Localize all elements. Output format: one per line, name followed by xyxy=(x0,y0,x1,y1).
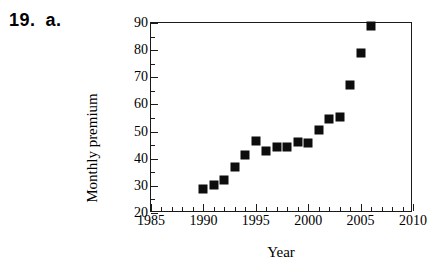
y-tick-major xyxy=(151,159,158,160)
x-tick-label: 1990 xyxy=(180,214,226,228)
data-point xyxy=(230,162,239,171)
data-point xyxy=(367,21,376,30)
x-axis-title: Year xyxy=(150,244,412,261)
data-point xyxy=(199,184,208,193)
data-point xyxy=(283,143,292,152)
data-point xyxy=(356,48,365,57)
y-tick-major xyxy=(151,77,158,78)
x-tick-label: 2005 xyxy=(338,214,384,228)
x-tick-label: 2010 xyxy=(390,214,436,228)
y-axis-title: Monthly premium xyxy=(84,53,101,243)
data-point xyxy=(272,143,281,152)
data-point xyxy=(262,146,271,155)
x-tick-major xyxy=(256,204,257,211)
data-point xyxy=(304,138,313,147)
y-tick-label: 90 xyxy=(120,16,148,30)
x-tick-minor xyxy=(161,207,162,211)
x-tick-major xyxy=(151,204,152,211)
data-point xyxy=(335,113,344,122)
problem-part: a. xyxy=(46,10,62,30)
x-tick-minor xyxy=(235,207,236,211)
figure: 19.a. Monthly premium 2030405060708090 1… xyxy=(0,0,439,278)
x-tick-major xyxy=(203,204,204,211)
x-tick-minor xyxy=(224,207,225,211)
x-tick-minor xyxy=(214,207,215,211)
x-tick-minor xyxy=(329,207,330,211)
y-tick-label: 50 xyxy=(120,125,148,139)
problem-label: 19.a. xyxy=(9,10,62,31)
y-tick-major xyxy=(151,23,158,24)
y-tick-major xyxy=(151,132,158,133)
data-point xyxy=(293,138,302,147)
x-tick-label: 1995 xyxy=(233,214,279,228)
y-tick-label: 70 xyxy=(120,70,148,84)
y-tick-minor xyxy=(151,199,155,200)
x-tick-major xyxy=(308,204,309,211)
y-tick-label: 80 xyxy=(120,43,148,57)
y-tick-major xyxy=(151,186,158,187)
y-tick-label: 60 xyxy=(120,97,148,111)
data-point xyxy=(241,150,250,159)
x-tick-minor xyxy=(403,207,404,211)
x-tick-minor xyxy=(392,207,393,211)
data-point xyxy=(325,115,334,124)
data-point xyxy=(209,181,218,190)
x-tick-label: 1985 xyxy=(128,214,174,228)
y-tick-minor xyxy=(151,172,155,173)
data-point xyxy=(346,81,355,90)
x-tick-label: 2000 xyxy=(285,214,331,228)
y-tick-major xyxy=(151,50,158,51)
y-tick-label: 40 xyxy=(120,152,148,166)
scatter-plot-area: Monthly premium 2030405060708090 1985199… xyxy=(150,22,412,212)
y-tick-label: 30 xyxy=(120,179,148,193)
y-tick-minor xyxy=(151,145,155,146)
x-tick-minor xyxy=(350,207,351,211)
x-tick-major xyxy=(361,204,362,211)
x-tick-minor xyxy=(287,207,288,211)
y-tick-minor xyxy=(151,118,155,119)
y-tick-major xyxy=(151,104,158,105)
x-tick-minor xyxy=(277,207,278,211)
problem-number: 19. xyxy=(9,10,36,30)
x-tick-minor xyxy=(371,207,372,211)
data-point xyxy=(251,137,260,146)
x-tick-minor xyxy=(382,207,383,211)
x-tick-minor xyxy=(319,207,320,211)
x-tick-minor xyxy=(193,207,194,211)
x-tick-minor xyxy=(340,207,341,211)
x-tick-minor xyxy=(245,207,246,211)
x-tick-minor xyxy=(266,207,267,211)
x-tick-minor xyxy=(172,207,173,211)
y-tick-minor xyxy=(151,91,155,92)
x-tick-major xyxy=(413,204,414,211)
y-tick-minor xyxy=(151,37,155,38)
y-tick-minor xyxy=(151,64,155,65)
x-tick-minor xyxy=(182,207,183,211)
data-point xyxy=(314,126,323,135)
x-tick-minor xyxy=(298,207,299,211)
data-point xyxy=(220,176,229,185)
